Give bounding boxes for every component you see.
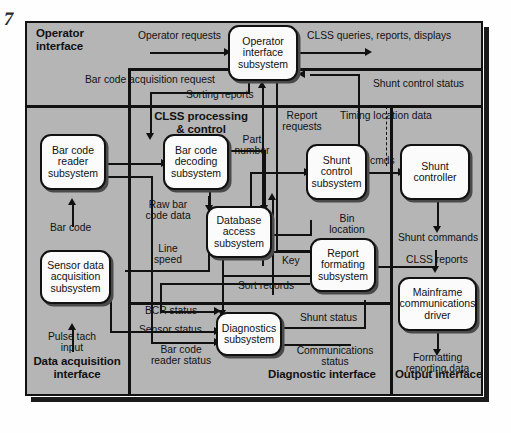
label-report-requests: Report requests — [278, 110, 326, 133]
node-operator-interface-subsystem[interactable]: Operator interface subsystem — [228, 25, 298, 81]
architecture-diagram: 7 Operator interface CLSS processing & c… — [0, 0, 511, 433]
region-label-clss-processing: CLSS processing & control — [133, 110, 269, 135]
label-clss-reports: CLSS reports — [406, 254, 468, 265]
label-part-number: Part number — [232, 134, 272, 157]
line-report-requests-v — [276, 80, 278, 252]
node-diagnostics-subsystem[interactable]: Diagnostics subsystem — [216, 312, 282, 356]
label-line-speed: Line speed — [148, 243, 188, 266]
label-clss-queries: CLSS queries, reports, displays — [307, 30, 451, 41]
arrow-bar-code — [68, 198, 76, 205]
line-cmds-h — [366, 172, 400, 174]
node-line: driver — [398, 310, 478, 322]
label-shunt-control-status: Shunt control status — [373, 78, 464, 89]
line-formatting-reporting-v — [437, 331, 439, 351]
node-database-access-subsystem[interactable]: Database access subsystem — [206, 206, 272, 258]
arrow-clss-reports — [431, 266, 439, 273]
frame-shadow-right — [484, 27, 489, 402]
node-mainframe-communications-driver[interactable]: Mainframe communications driver — [398, 277, 477, 331]
label-operator-requests: Operator requests — [138, 30, 221, 41]
label-key: Key — [282, 255, 300, 266]
arrow-shunt-control-status — [298, 70, 305, 78]
line-operator-requests — [150, 52, 226, 54]
arrow-sorting-reports — [258, 81, 266, 88]
arrow-clss-queries — [365, 48, 372, 56]
divider-operator-inner — [128, 68, 483, 71]
label-sensor-status: Sensor status — [139, 324, 202, 335]
node-line: controller — [411, 172, 458, 184]
node-line: subsystem — [45, 283, 106, 295]
line-db-to-diag — [222, 276, 224, 312]
label-shunt-status: Shunt status — [300, 312, 357, 323]
arrow-bar-code-acquisition-request — [146, 133, 154, 140]
node-report-formating-subsystem[interactable]: Report formating subsystem — [310, 238, 376, 292]
label-bar-code-reader-status: Bar code reader status — [140, 344, 222, 367]
label-cmds: cmds — [370, 155, 395, 166]
label-formatting-reporting-data: Formatting reporting data — [390, 352, 485, 375]
arrow-pulse-tach-input — [68, 323, 76, 330]
divider-operator-bottom — [25, 105, 483, 108]
label-raw-bar-code-data: Raw bar code data — [138, 199, 198, 222]
node-shunt-control-subsystem[interactable]: Shunt control subsystem — [306, 144, 367, 200]
label-bar-code: Bar code — [50, 222, 91, 233]
divider-data-acq-left — [128, 105, 131, 396]
node-line: subsystem — [309, 178, 363, 190]
node-shunt-controller[interactable]: Shunt controller — [400, 144, 470, 200]
region-label-operator-interface: Operator interface — [36, 27, 84, 52]
node-bar-code-reader-subsystem[interactable]: Bar code reader subsystem — [40, 134, 106, 190]
line-bcr-status-h — [105, 176, 153, 178]
label-shunt-commands: Shunt commands — [398, 232, 478, 243]
line-clss-queries — [297, 52, 367, 54]
node-sensor-data-acquisition-subsystem[interactable]: Sensor data acquisition subsystem — [40, 250, 111, 304]
node-bar-code-decoding-subsystem[interactable]: Bar code decoding subsystem — [163, 134, 229, 190]
label-pulse-tach-input: Pulse tach input — [35, 331, 109, 354]
label-communications-status: Communications status — [285, 345, 385, 368]
label-bar-code-acquisition-request: Bar code acquisition request — [85, 74, 215, 85]
label-sorting-reports: Sorting reports — [186, 89, 254, 100]
region-label-data-acquisition: Data acquisition interface — [27, 355, 127, 380]
line-part-number-v — [264, 150, 266, 208]
node-line: subsystem — [212, 238, 266, 250]
region-label-diagnostic-interface: Diagnostic interface — [268, 368, 376, 381]
label-bin-location: Bin location — [327, 213, 367, 236]
label-sort-records: Sort records — [238, 280, 294, 291]
line-line-speed-h — [125, 270, 210, 272]
page-folio-mark: 7 — [2, 8, 22, 28]
line-shunt-control-status-h — [310, 74, 360, 76]
node-line: subsystem — [169, 168, 223, 180]
line-shunt-commands-v — [437, 200, 439, 228]
node-line: subsystem — [220, 334, 278, 346]
node-line: subsystem — [46, 168, 100, 180]
node-line: subsystem — [316, 271, 370, 283]
arrow-bin-location-up — [268, 193, 276, 200]
node-line: subsystem — [236, 59, 290, 71]
line-bcar-v2 — [150, 92, 152, 134]
line-to-shunt-control-h — [250, 172, 306, 174]
line-bin-loc-up-v2 — [272, 200, 274, 250]
line-rawbar-h — [105, 163, 163, 165]
line-sort-records-h — [222, 275, 312, 277]
frame-shadow-bottom — [31, 397, 488, 402]
label-timing-location-data: Timing location data — [340, 110, 432, 121]
label-bcr-status: BCR status — [145, 305, 197, 316]
line-shunt-status-v — [364, 300, 366, 329]
line-bin-location-v — [310, 220, 312, 236]
